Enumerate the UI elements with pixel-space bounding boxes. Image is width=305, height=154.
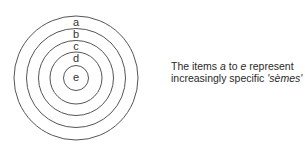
ring-label-e: e: [73, 71, 79, 83]
caption-text: The items: [171, 60, 220, 72]
ring-label-c: c: [73, 40, 79, 52]
caption-term: 'sèmes': [267, 72, 302, 84]
caption-line-2: increasingly specific 'sèmes': [171, 72, 302, 84]
ring-label-a: a: [73, 16, 80, 28]
caption-text: represent: [246, 60, 293, 72]
caption-text: increasingly specific: [171, 72, 267, 84]
ring-label-d: d: [73, 52, 79, 64]
caption: The items a to e represent increasingly …: [171, 60, 302, 84]
concentric-rings-diagram: a b c d e: [0, 0, 160, 154]
ring-label-b: b: [73, 28, 79, 40]
caption-text: to: [226, 60, 241, 72]
caption-line-1: The items a to e represent: [171, 60, 302, 72]
